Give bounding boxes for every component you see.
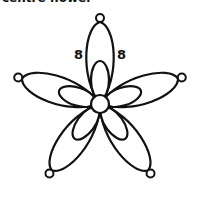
picot xyxy=(178,73,186,81)
stitch-count-right: 8 xyxy=(117,47,126,62)
tatting-flower-diagram: 8 8 xyxy=(0,0,198,201)
centre-ring xyxy=(91,95,109,113)
picot xyxy=(45,170,53,178)
picot xyxy=(147,170,155,178)
inner-petal xyxy=(91,61,109,99)
stitch-count-left: 8 xyxy=(74,47,83,62)
picot xyxy=(96,14,104,22)
picot xyxy=(14,73,22,81)
